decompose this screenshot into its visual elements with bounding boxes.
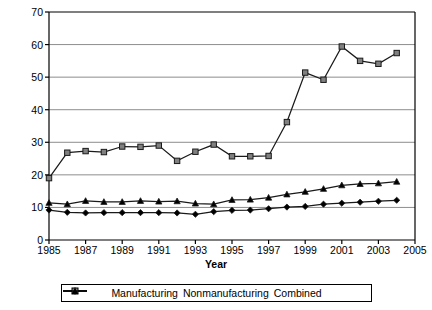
data-point-manufacturing — [156, 210, 162, 216]
data-point-manufacturing — [192, 211, 198, 217]
data-point-manufacturing — [357, 199, 363, 205]
data-point-nonmanufacturing — [156, 143, 161, 148]
data-point-nonmanufacturing — [394, 50, 399, 55]
plot-area — [0, 0, 432, 310]
data-point-nonmanufacturing — [193, 149, 198, 154]
data-point-manufacturing — [174, 210, 180, 216]
data-point-manufacturing — [394, 197, 400, 203]
data-point-manufacturing — [83, 210, 89, 216]
data-point-nonmanufacturing — [357, 58, 362, 63]
data-point-nonmanufacturing — [138, 144, 143, 149]
legend-item-manufacturing: Manufacturing — [111, 288, 178, 299]
data-point-manufacturing — [339, 200, 345, 206]
data-point-nonmanufacturing — [229, 154, 234, 159]
data-point-manufacturing — [284, 204, 290, 210]
data-point-manufacturing — [266, 206, 272, 212]
legend-label-nonmanufacturing: Nonmanufacturing — [183, 288, 269, 299]
data-point-manufacturing — [101, 210, 107, 216]
legend-label-manufacturing: Manufacturing — [111, 288, 178, 299]
data-point-manufacturing — [137, 210, 143, 216]
data-point-manufacturing — [229, 207, 235, 213]
series-line-combined — [49, 182, 397, 204]
data-point-nonmanufacturing — [321, 77, 326, 82]
data-point-nonmanufacturing — [120, 144, 125, 149]
data-point-manufacturing — [302, 203, 308, 209]
legend-item-nonmanufacturing: Nonmanufacturing — [183, 288, 269, 299]
data-point-nonmanufacturing — [211, 142, 216, 147]
data-point-manufacturing — [119, 210, 125, 216]
data-point-manufacturing — [64, 209, 70, 215]
data-point-nonmanufacturing — [284, 119, 289, 124]
data-point-nonmanufacturing — [339, 44, 344, 49]
data-point-nonmanufacturing — [248, 154, 253, 159]
chart-legend: Manufacturing Nonmanufacturing Combined — [61, 284, 372, 302]
data-point-nonmanufacturing — [65, 150, 70, 155]
legend-marker-triangle-icon — [62, 285, 88, 297]
data-point-nonmanufacturing — [83, 148, 88, 153]
data-point-nonmanufacturing — [266, 153, 271, 158]
data-point-nonmanufacturing — [376, 61, 381, 66]
legend-label-combined: Combined — [274, 288, 322, 299]
data-point-nonmanufacturing — [101, 149, 106, 154]
data-point-nonmanufacturing — [303, 70, 308, 75]
legend-item-combined: Combined — [274, 288, 322, 299]
series-line-nonmanufacturing — [49, 47, 397, 179]
chart-container: Value Added (dollars/GO) Year 0102030405… — [0, 0, 432, 310]
data-point-manufacturing — [211, 209, 217, 215]
data-point-nonmanufacturing — [174, 158, 179, 163]
data-point-nonmanufacturing — [46, 175, 51, 180]
data-point-manufacturing — [375, 198, 381, 204]
data-point-manufacturing — [320, 201, 326, 207]
